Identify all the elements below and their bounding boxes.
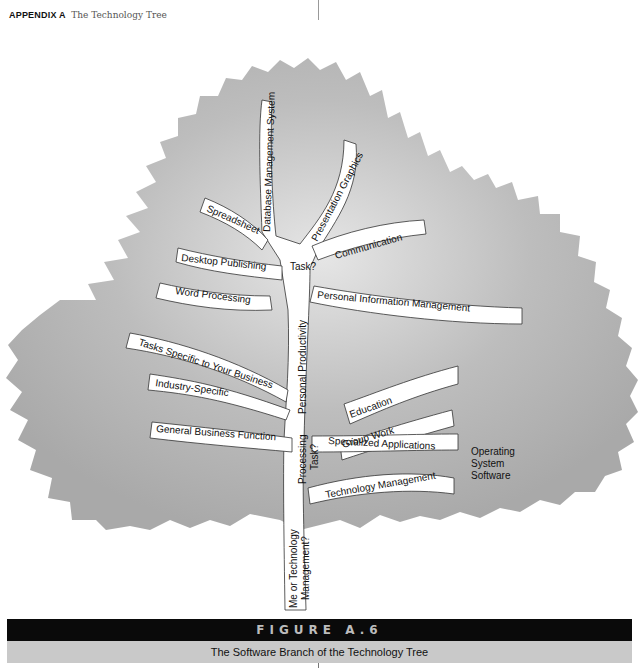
side-note-line: System <box>471 458 515 470</box>
figure-caption: FIGURE A.6 The Software Branch of the Te… <box>7 619 632 663</box>
figure-description: The Software Branch of the Technology Tr… <box>7 641 632 663</box>
side-note-line: Software <box>471 470 515 482</box>
figure-label: FIGURE A.6 <box>7 619 632 641</box>
trunk-personal-productivity: Personal Productivity <box>297 320 308 414</box>
trunk-task-question: Task? <box>290 261 317 272</box>
trunk-processing-question-line1: Processing <box>297 435 308 484</box>
technology-tree-diagram: Database Management System Presentation … <box>0 0 639 668</box>
trunk-root-question-line2: Management? <box>300 536 311 600</box>
side-note-line: Operating <box>471 446 515 458</box>
operating-system-software-note: Operating System Software <box>471 446 515 482</box>
trunk-processing-question-line2: Task? <box>309 443 320 470</box>
trunk-root-question-line1: Me or Technology <box>288 529 299 608</box>
page-gutter-line-bottom <box>318 663 319 668</box>
